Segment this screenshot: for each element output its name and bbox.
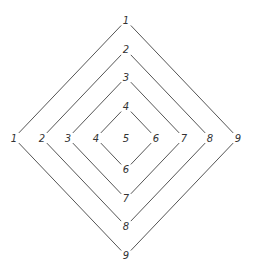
ring-4-bottom-label: 6 bbox=[123, 164, 129, 175]
ring-4-edge-bottom-left bbox=[101, 143, 121, 164]
ring-4-top-label: 4 bbox=[123, 101, 129, 112]
ring-4-right-label: 6 bbox=[153, 133, 159, 144]
ring-2-bottom-label: 8 bbox=[123, 221, 129, 232]
ring-1-bottom-label: 9 bbox=[123, 250, 129, 261]
ring-1-edge-bottom-right bbox=[131, 143, 233, 250]
ring-4-edge-top-left bbox=[101, 112, 121, 133]
ring-1-edge-bottom-left bbox=[19, 143, 121, 250]
ring-3-bottom-label: 7 bbox=[123, 193, 130, 204]
ring-1-left-label: 1 bbox=[11, 133, 17, 144]
ring-1-edge-top-right bbox=[131, 25, 233, 132]
ring-2-left-label: 2 bbox=[39, 133, 45, 144]
ring-1-top-label: 1 bbox=[123, 15, 129, 26]
ring-1-right-label: 9 bbox=[235, 133, 241, 144]
ring-1-edge-top-left bbox=[19, 25, 121, 132]
ring-4-left-label: 4 bbox=[93, 133, 99, 144]
ring-3-edge-top-left bbox=[73, 82, 121, 133]
ring-3-top-label: 3 bbox=[123, 72, 129, 83]
ring-4-edge-top-right bbox=[131, 112, 151, 133]
ring-3-left-label: 3 bbox=[65, 133, 71, 144]
ring-3-right-label: 7 bbox=[181, 133, 188, 144]
ring-2-top-label: 2 bbox=[123, 44, 129, 55]
number-diamond-diagram: 11992288337744665 bbox=[0, 0, 257, 272]
center-label: 5 bbox=[123, 133, 129, 144]
ring-3-edge-bottom-right bbox=[131, 143, 179, 194]
ring-3-edge-bottom-left bbox=[73, 143, 121, 194]
ring-3-edge-top-right bbox=[131, 82, 179, 133]
ring-2-right-label: 8 bbox=[207, 133, 213, 144]
ring-4-edge-bottom-right bbox=[131, 143, 151, 164]
